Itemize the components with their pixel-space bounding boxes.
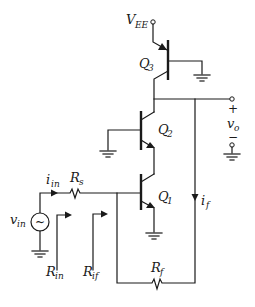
ground-icon xyxy=(224,154,240,160)
vin-sub: in xyxy=(17,219,26,229)
q1-sub: 1 xyxy=(167,196,173,206)
q3-sub: 3 xyxy=(148,63,154,73)
rif-arrow-icon xyxy=(101,211,108,218)
ac-symbol-icon: ~ xyxy=(35,215,45,229)
ground-icon xyxy=(194,75,210,81)
emitter-arrow-icon xyxy=(158,43,167,50)
iin-arrow-icon xyxy=(51,190,58,197)
iin-sub: in xyxy=(51,179,60,189)
rin-arrow xyxy=(57,215,67,270)
rif-arrow xyxy=(93,214,103,270)
emitter-arrow-icon xyxy=(146,142,155,148)
voltage-source: ~ v in xyxy=(10,212,49,257)
ground-icon xyxy=(100,151,116,157)
rif-sub: if xyxy=(92,271,100,281)
vee-terminal: V EE xyxy=(126,12,155,30)
iin-label: i xyxy=(46,172,50,187)
vo-plus: + xyxy=(228,102,238,116)
vee-sub: EE xyxy=(134,20,149,30)
if-label: i xyxy=(201,193,205,208)
if-arrow-icon xyxy=(192,194,199,201)
rf-sub: f xyxy=(159,267,165,277)
rs-sub: s xyxy=(79,177,84,187)
circuit-diagram: V EE Q 3 + v o − xyxy=(0,0,255,307)
rin-sub: in xyxy=(55,271,64,281)
vo-minus: − xyxy=(228,130,238,144)
transistor-q2: Q 2 xyxy=(100,111,173,174)
if-sub: f xyxy=(205,200,211,210)
vo-terminal-plus xyxy=(230,97,234,101)
ground-icon xyxy=(146,233,162,239)
ground-icon xyxy=(32,251,48,257)
transistor-q1: Q 1 xyxy=(141,174,173,239)
rin-arrow-icon xyxy=(65,212,72,219)
q2-sub: 2 xyxy=(166,129,173,139)
